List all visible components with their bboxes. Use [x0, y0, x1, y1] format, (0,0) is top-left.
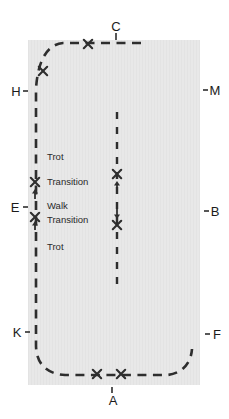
arena-letter-M: M: [210, 84, 221, 97]
transition-arrow-head: [114, 215, 120, 220]
gait-label-walk: Walk: [47, 201, 68, 211]
arena-letter-K: K: [13, 326, 22, 339]
gait-label-trot: Trot: [47, 242, 64, 252]
gait-label-trot: Trot: [47, 152, 64, 162]
arena-letter-A: A: [109, 394, 118, 407]
gait-label-transition: Transition: [47, 177, 88, 187]
riding-path-svg: [0, 0, 229, 419]
arena-letter-B: B: [211, 205, 220, 218]
transition-arrow-head: [114, 181, 120, 186]
arena-letter-C: C: [111, 20, 120, 33]
gait-label-transition: Transition: [47, 215, 88, 225]
arena-letter-F: F: [213, 328, 221, 341]
arena-letter-H: H: [11, 85, 20, 98]
dressage-arena-diagram: CHMEBKFA TrotTransitionWalkTransitionTro…: [0, 0, 229, 419]
arena-letter-E: E: [11, 201, 20, 214]
